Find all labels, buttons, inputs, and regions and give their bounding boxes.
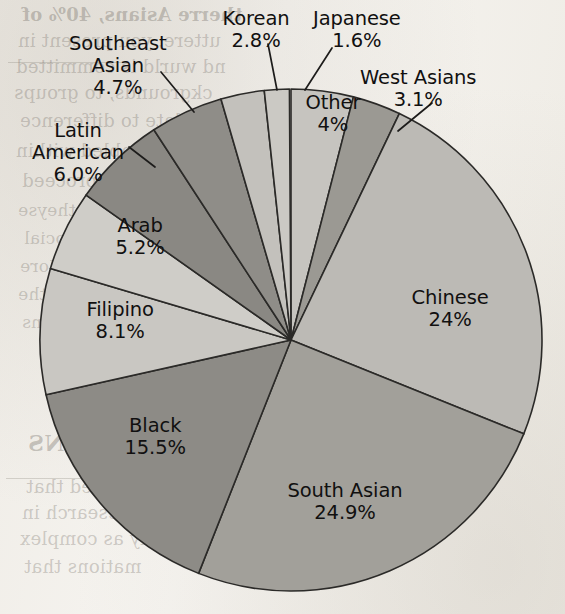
slice-value-text: 8.1% <box>87 321 154 343</box>
slice-value-text: 24% <box>412 309 489 331</box>
pie-slice-label: Korean2.8% <box>223 8 290 52</box>
slice-value-text: 3.1% <box>360 89 476 111</box>
slice-name-text: American <box>32 142 124 164</box>
slice-name-text: Black <box>125 415 186 437</box>
slice-name-text: Arab <box>116 215 165 237</box>
slice-name-text: Japanese <box>313 8 401 30</box>
slice-value-text: 1.6% <box>313 30 401 52</box>
pie-slice-label: Black15.5% <box>125 415 186 459</box>
slice-name-text: Chinese <box>412 287 489 309</box>
pie-slice-label: Arab5.2% <box>116 215 165 259</box>
slice-name-text: South Asian <box>288 480 403 502</box>
slice-name-text: Asian <box>69 55 167 77</box>
slice-name-text: Latin <box>32 120 124 142</box>
pie-slice-label: Chinese24% <box>412 287 489 331</box>
slice-value-text: 15.5% <box>125 437 186 459</box>
slice-value-text: 5.2% <box>116 237 165 259</box>
slice-name-text: West Asians <box>360 67 476 89</box>
slice-value-text: 6.0% <box>32 164 124 186</box>
leader-line <box>305 48 332 90</box>
slice-name-text: Korean <box>223 8 290 30</box>
pie-chart-figure: therre Asians, 40% ofuttere, you present… <box>0 0 565 614</box>
pie-slice-label: South Asian24.9% <box>288 480 403 524</box>
pie-slice-label: Filipino8.1% <box>87 299 154 343</box>
pie-slice-label: SoutheastAsian4.7% <box>69 33 167 100</box>
slice-value-text: 4% <box>306 114 361 136</box>
slice-value-text: 24.9% <box>288 502 403 524</box>
slice-name-text: Southeast <box>69 33 167 55</box>
pie-slice-label: West Asians3.1% <box>360 67 476 111</box>
slice-name-text: Filipino <box>87 299 154 321</box>
slice-value-text: 4.7% <box>69 77 167 99</box>
pie-slice-label: LatinAmerican6.0% <box>32 120 124 187</box>
slice-name-text: Other <box>306 92 361 114</box>
pie-slice-label: Other4% <box>306 92 361 136</box>
pie-slice-label: Japanese1.6% <box>313 8 401 52</box>
slice-value-text: 2.8% <box>223 30 290 52</box>
